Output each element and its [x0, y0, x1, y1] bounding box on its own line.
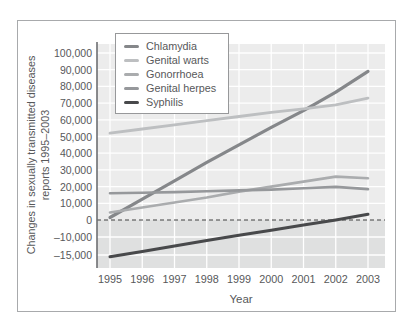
x-axis-tick-label: 2000 [253, 273, 289, 285]
legend-item-gonorrhoea: Gonorrhoea [124, 67, 220, 81]
legend-item-genital-herpes: Genital herpes [124, 81, 220, 95]
legend: Chlamydia Genital warts Gonorrhoea Genit… [115, 33, 229, 114]
y-axis-tick-label: 80,000 [0, 80, 92, 92]
x-axis-tick-label: 2002 [318, 273, 354, 285]
legend-line-swatch [124, 73, 139, 76]
y-axis-tick-label: 60,000 [0, 114, 92, 126]
y-axis-tick-label: 50,000 [0, 131, 92, 143]
legend-line-swatch [124, 59, 139, 62]
legend-label: Chlamydia [146, 39, 197, 53]
x-axis-tick-label: 1998 [189, 273, 225, 285]
legend-item-genital-warts: Genital warts [124, 53, 220, 67]
legend-label: Genital warts [146, 53, 209, 67]
legend-line-swatch [124, 45, 139, 48]
x-axis-tick-label: 2001 [286, 273, 322, 285]
sti-line-chart-figure: Changes in sexually transmitted diseases… [0, 0, 409, 334]
legend-label: Genital herpes [146, 81, 216, 95]
x-axis-title: Year [97, 293, 385, 305]
y-axis-tick-label: 30,000 [0, 164, 92, 176]
legend-line-swatch [124, 87, 139, 90]
legend-item-chlamydia: Chlamydia [124, 39, 220, 53]
plot-area-below-zero [97, 220, 385, 268]
x-axis-tick-label: 1996 [124, 273, 160, 285]
legend-item-syphilis: Syphilis [124, 95, 220, 109]
y-axis-tick-label: –15,000 [0, 249, 92, 261]
legend-label: Gonorrhoea [146, 67, 204, 81]
y-axis-tick-label: 0 [0, 214, 92, 226]
x-axis-tick-label: 1999 [221, 273, 257, 285]
y-axis-tick-label: 90,000 [0, 64, 92, 76]
y-axis-tick-label: 70,000 [0, 97, 92, 109]
y-axis-tick-label: 20,000 [0, 181, 92, 193]
y-axis-tick-label: 10,000 [0, 197, 92, 209]
x-axis-tick-label: 1995 [92, 273, 128, 285]
x-axis-tick-label: 2003 [350, 273, 386, 285]
legend-label: Syphilis [146, 95, 183, 109]
y-axis-tick-label: 40,000 [0, 147, 92, 159]
y-axis-tick-label: –10,000 [0, 231, 92, 243]
y-axis-tick-label: 100,000 [0, 47, 92, 59]
x-axis-tick-label: 1997 [157, 273, 193, 285]
legend-line-swatch [124, 101, 139, 104]
